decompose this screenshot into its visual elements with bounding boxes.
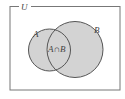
set-b-label: B	[94, 25, 100, 35]
universe-label: U	[21, 2, 28, 12]
venn-diagram: U A B A∩B	[0, 0, 125, 99]
intersection-label: A∩B	[47, 44, 66, 54]
set-a-label: A	[32, 29, 39, 39]
